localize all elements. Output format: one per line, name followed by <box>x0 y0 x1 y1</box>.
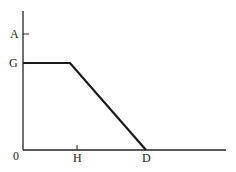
label-d: D <box>142 151 151 165</box>
label-h: H <box>73 151 82 165</box>
diagram: A G 0 H D <box>0 0 236 172</box>
label-a: A <box>10 27 19 41</box>
label-g: G <box>9 56 18 70</box>
label-origin: 0 <box>13 149 19 163</box>
curve-line <box>23 63 146 150</box>
